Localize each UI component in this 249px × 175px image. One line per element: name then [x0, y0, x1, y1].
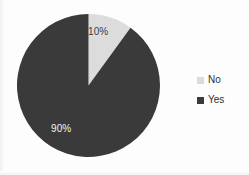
legend-swatch-yes-icon: [197, 97, 204, 104]
legend-label-yes: Yes: [208, 95, 224, 105]
pie-data-label-yes: 90%: [51, 124, 71, 134]
pie-chart-screenshot: 10% 90% No Yes: [0, 0, 249, 175]
legend-label-no: No: [208, 75, 221, 85]
legend-swatch-no-icon: [197, 77, 204, 84]
chart-legend: No Yes: [197, 70, 247, 110]
legend-item-yes[interactable]: Yes: [197, 90, 247, 110]
pie-data-label-no: 10%: [88, 27, 108, 37]
chart-plot-area: 10% 90%: [0, 0, 186, 175]
legend-item-no[interactable]: No: [197, 70, 247, 90]
